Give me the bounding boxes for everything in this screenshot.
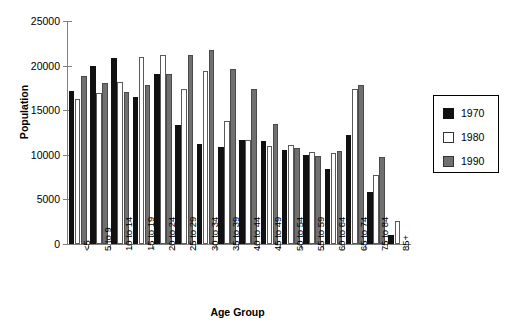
bar-1990--5 [81, 76, 87, 244]
bar-1980-20-to-24 [160, 55, 166, 244]
x-axis-tick-label: 30 to 34 [210, 217, 219, 251]
x-axis-title: Age Group [67, 306, 408, 318]
x-axis-tick-label: <5 [82, 240, 91, 251]
x-axis-tick-label: 35 to 39 [231, 217, 240, 251]
bar-1990-25-to-29 [188, 55, 194, 244]
chart-legend: 197019801990 [433, 95, 499, 173]
bar-1970-5-to-9 [90, 66, 96, 244]
x-axis-tick-label: 50 to 54 [295, 217, 304, 251]
bar-1980-5-to-9 [96, 93, 102, 244]
bar-1980-65-to-74 [352, 89, 358, 244]
y-axis-tick-label: 5000 [14, 194, 60, 204]
x-axis-tick-label: 5 to 9 [103, 227, 112, 251]
bars-layer [67, 21, 408, 244]
legend-item-1980[interactable]: 1980 [443, 131, 484, 143]
plot-area [67, 21, 408, 244]
legend-item-label: 1980 [461, 132, 484, 143]
x-axis-tick-label: 75 to 84 [380, 217, 389, 251]
bar-1970--5 [69, 91, 75, 244]
bar-1990-5-to-9 [102, 83, 108, 244]
bar-1980-50-to-54 [288, 145, 294, 244]
x-axis-tick-label: 25 to 29 [188, 217, 197, 251]
x-axis-tick-label: 40 to 44 [252, 217, 261, 251]
bar-1980-35-to-39 [224, 121, 230, 244]
bar-1970-10-to-14 [111, 58, 117, 244]
y-axis-tick-label: 25000 [14, 16, 60, 26]
x-axis-tick-label: 60 to 64 [337, 217, 346, 251]
x-axis-tick-label: 10 to 14 [124, 217, 133, 251]
black-square-swatch [443, 108, 454, 119]
y-axis-tick-label: 15000 [14, 105, 60, 115]
y-axis-tick-label: 20000 [14, 61, 60, 71]
legend-item-1970[interactable]: 1970 [443, 107, 484, 119]
bar-1980-30-to-34 [203, 71, 209, 244]
legend-item-1990[interactable]: 1990 [443, 155, 484, 167]
y-axis-tick-label: 10000 [14, 150, 60, 160]
y-axis-tick-labels: 0500010000150002000025000 [12, 0, 60, 326]
bar-1980--5 [75, 99, 81, 244]
x-axis-tick-label: 20 to 24 [167, 217, 176, 251]
y-axis-tick-mark [63, 244, 72, 245]
population-by-age-group-bar-chart: Population 0500010000150002000025000 <55… [0, 0, 519, 326]
gray-square-swatch [443, 156, 454, 167]
x-axis-tick-label: 85+ [401, 235, 410, 251]
bar-1990-30-to-34 [209, 50, 215, 244]
y-axis-tick-label: 0 [14, 239, 60, 249]
x-axis-tick-label: 65 to 74 [359, 217, 368, 251]
legend-item-label: 1990 [461, 156, 484, 167]
x-axis-tick-labels: <55 to 910 to 1415 to 1920 to 2425 to 29… [67, 249, 408, 307]
bar-1980-15-to-19 [139, 57, 145, 244]
x-axis-tick-label: 45 to 49 [273, 217, 282, 251]
x-axis-tick-label: 55 to 59 [316, 217, 325, 251]
legend-item-label: 1970 [461, 108, 484, 119]
x-axis-tick-label: 15 to 19 [146, 217, 155, 251]
bar-1980-75-to-84 [373, 175, 379, 244]
white-square-swatch [443, 132, 454, 143]
